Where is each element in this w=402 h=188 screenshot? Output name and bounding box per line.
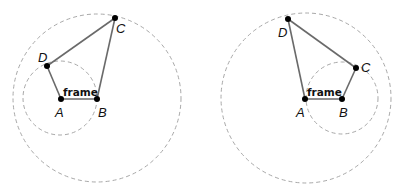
frame-label: frame	[307, 86, 342, 98]
label-b: B	[98, 105, 107, 120]
link-cd	[47, 18, 115, 66]
link-da	[47, 66, 61, 99]
link-da	[288, 19, 305, 99]
label-a: A	[295, 105, 305, 120]
joint-d	[285, 16, 291, 22]
label-b: B	[339, 105, 348, 120]
left-linkage: ABCDframe	[13, 14, 181, 182]
label-c: C	[361, 60, 371, 75]
frame-label: frame	[63, 86, 98, 98]
link-cd	[288, 19, 356, 68]
four-bar-linkage-diagram: ABCDframeABCDframe	[0, 0, 402, 188]
label-a: A	[54, 105, 64, 120]
joint-c	[353, 65, 359, 71]
label-d: D	[278, 25, 287, 40]
label-d: D	[38, 50, 47, 65]
link-bc	[342, 68, 356, 99]
right-linkage: ABCDframe	[221, 13, 391, 183]
label-c: C	[116, 21, 126, 36]
link-bc	[97, 18, 115, 99]
